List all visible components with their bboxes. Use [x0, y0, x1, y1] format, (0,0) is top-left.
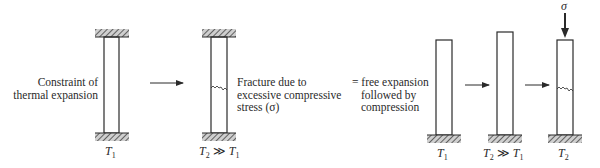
constrained-rod-t1	[95, 29, 129, 141]
constraint-caption: Constraint of thermal expansion	[6, 76, 98, 101]
temp-label-bar3-t2: T2	[558, 146, 569, 162]
fracture-crack-icon	[557, 87, 573, 91]
temp-label-t1: T1	[105, 144, 116, 160]
ground-support-hatched-icon	[427, 135, 461, 143]
free-expansion-caption: = free expansion followed by compression	[352, 76, 429, 114]
top-support-hatched-icon	[202, 29, 236, 37]
load-arrow-down-icon	[561, 13, 569, 38]
temp-label-bar2-t2-gg-t1: T2 ≫ T1	[483, 146, 523, 162]
ground-support-hatched-icon	[488, 135, 522, 143]
fracture-crack-icon	[211, 86, 227, 90]
bottom-support-hatched-icon	[95, 133, 129, 141]
fracture-caption: Fracture due to excessive compressive st…	[237, 76, 341, 114]
temp-label-bar1-t1: T1	[437, 146, 448, 162]
temp-label-t2-gg-t1: T2 ≫ T1	[199, 144, 239, 160]
free-bar-t2-expanded	[488, 32, 522, 143]
free-bar-t1	[427, 40, 461, 143]
ground-support-hatched-icon	[548, 135, 582, 143]
compressed-bar-t2-fractured	[548, 13, 582, 143]
sigma-load-label: σ	[561, 0, 567, 14]
rod	[497, 32, 513, 135]
bottom-support-hatched-icon	[202, 133, 236, 141]
top-support-hatched-icon	[95, 29, 129, 37]
rod	[104, 37, 119, 133]
rod	[436, 40, 452, 135]
constrained-rod-t2-fractured	[202, 29, 236, 141]
rod	[211, 37, 227, 133]
